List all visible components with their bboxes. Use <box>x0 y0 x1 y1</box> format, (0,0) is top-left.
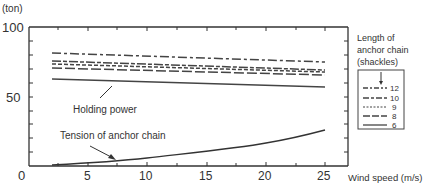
plot-frame <box>29 27 348 166</box>
legend-title-line2: anchor chain <box>357 45 409 55</box>
holding-power-label: Holding power <box>73 104 138 115</box>
x-tick-5: 5 <box>84 169 91 183</box>
legend-8: 8 <box>392 112 397 121</box>
tension-arrowhead <box>108 154 116 160</box>
y-axis-unit: (ton) <box>2 3 23 14</box>
holding-power-arrow <box>100 86 112 98</box>
legend-12: 12 <box>390 84 399 93</box>
x-tick-10: 10 <box>139 169 153 183</box>
x-axis-title: Wind speed (m/s) <box>348 172 422 183</box>
y-tick-0: 0 <box>18 168 25 183</box>
legend-title-line3: (shackles) <box>357 57 398 67</box>
legend: Length of anchor chain (shackles) 12 10 … <box>357 33 409 130</box>
x-ticks <box>58 27 325 166</box>
y-tick-100: 100 <box>2 20 24 35</box>
holding-power-lines <box>52 53 325 87</box>
legend-10: 10 <box>390 94 399 103</box>
x-tick-25: 25 <box>317 169 331 183</box>
x-tick-20: 20 <box>258 169 272 183</box>
legend-title-line1: Length of <box>357 33 395 43</box>
x-tick-15: 15 <box>199 169 213 183</box>
series-6 <box>52 79 325 87</box>
legend-9: 9 <box>392 103 397 112</box>
chart: (ton) <box>0 0 425 188</box>
legend-6: 6 <box>392 121 397 130</box>
tension-label: Tension of anchor chain <box>60 130 166 141</box>
series-12 <box>52 53 325 62</box>
y-tick-50: 50 <box>6 90 20 105</box>
